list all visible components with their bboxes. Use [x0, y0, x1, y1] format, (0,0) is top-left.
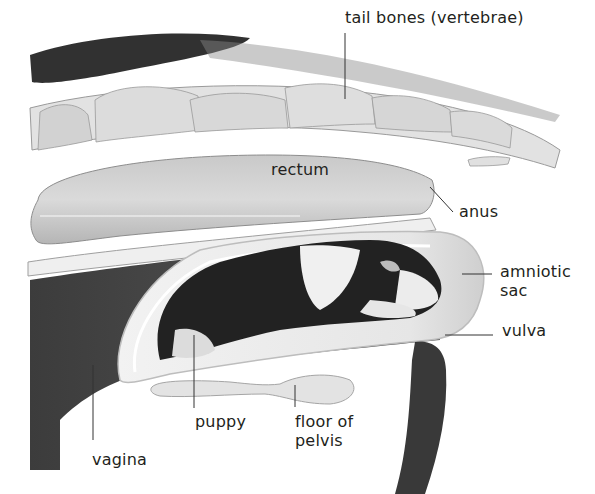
tail-fur [395, 342, 446, 494]
label-amniotic-sac: amniotic sac [500, 262, 571, 300]
anatomy-diagram: tail bones (vertebrae) rectum anus amnio… [0, 0, 595, 494]
label-vulva: vulva [502, 321, 546, 340]
label-anus: anus [459, 202, 498, 221]
label-floor-of-pelvis: floor of pelvis [295, 412, 353, 450]
label-vagina: vagina [92, 450, 147, 469]
label-rectum: rectum [271, 160, 329, 179]
label-puppy: puppy [195, 412, 246, 431]
label-tail-bones: tail bones (vertebrae) [345, 8, 524, 27]
pelvis-floor-bone [151, 375, 354, 404]
